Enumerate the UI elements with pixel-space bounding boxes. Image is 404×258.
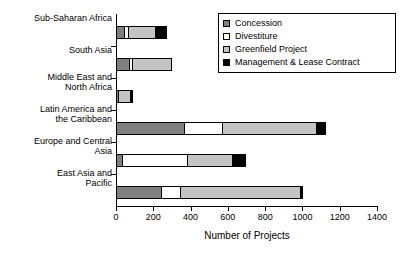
x-axis-tick [116,207,117,211]
bar-row [116,58,172,71]
x-axis-tick [302,207,303,211]
x-axis-tick [153,207,154,211]
y-axis-label: Latin America andthe Caribbean [2,104,112,125]
bar-segment [300,186,303,199]
bar-row [116,122,326,135]
bar-segment [180,186,301,199]
legend-label: Concession [235,18,282,28]
x-axis-tick [340,207,341,211]
x-axis-tick-label: 800 [258,212,273,222]
bar-segment [116,58,130,71]
x-axis-tick-label: 400 [183,212,198,222]
y-axis-label: South Asia [2,45,112,56]
legend-label: Greenfield Project [235,44,307,54]
legend-label: Divestiture [235,31,278,41]
x-axis-title: Number of Projects [116,230,378,241]
y-axis-label: East Asia andPacific [2,168,112,189]
y-axis-labels: Sub-Saharan AfricaSouth AsiaMiddle East … [0,0,112,192]
x-axis-line [116,206,378,207]
bar-row [116,26,167,39]
x-axis-tick [265,207,266,211]
bar-segment [116,186,162,199]
bar-segment [116,122,185,135]
bar-segment [187,154,234,167]
bar-segment [122,154,187,167]
bar-segment [155,26,167,39]
bar-segment [128,26,156,39]
y-axis-label: Middle East andNorth Africa [2,72,112,93]
x-axis-tick-label: 600 [220,212,235,222]
bar-segment [232,154,246,167]
stacked-bar-chart: Sub-Saharan AfricaSouth AsiaMiddle East … [0,0,404,258]
legend-swatch-icon [223,46,230,53]
legend-swatch-icon [223,33,230,40]
bar-segment [161,186,182,199]
bar-segment [316,122,325,135]
legend-label: Management & Lease Contract [235,57,360,67]
bar-row [116,154,246,167]
x-axis-tick [191,207,192,211]
legend-item: Greenfield Project [223,43,391,55]
y-axis-label: Sub-Saharan Africa [2,13,112,24]
bar-segment [132,58,172,71]
legend-item: Divestiture [223,30,391,42]
bar-row [116,90,133,103]
bar-segment [130,90,133,103]
y-axis-label: Europe and CentralAsia [2,136,112,157]
bar-segment [222,122,317,135]
bar-segment [184,122,223,135]
legend-swatch-icon [223,59,230,66]
bar-row [116,186,303,199]
chart-legend: ConcessionDivestitureGreenfield ProjectM… [218,13,396,73]
x-axis-tick-label: 0 [113,212,118,222]
x-axis-tick-label: 1400 [367,212,387,222]
x-axis-tick-label: 1000 [292,212,312,222]
legend-swatch-icon [223,20,230,27]
legend-item: Concession [223,17,391,29]
x-axis-tick [228,207,229,211]
legend-item: Management & Lease Contract [223,56,391,68]
x-axis-tick-label: 1200 [330,212,350,222]
x-axis-tick-label: 200 [146,212,161,222]
x-axis-tick [377,207,378,211]
